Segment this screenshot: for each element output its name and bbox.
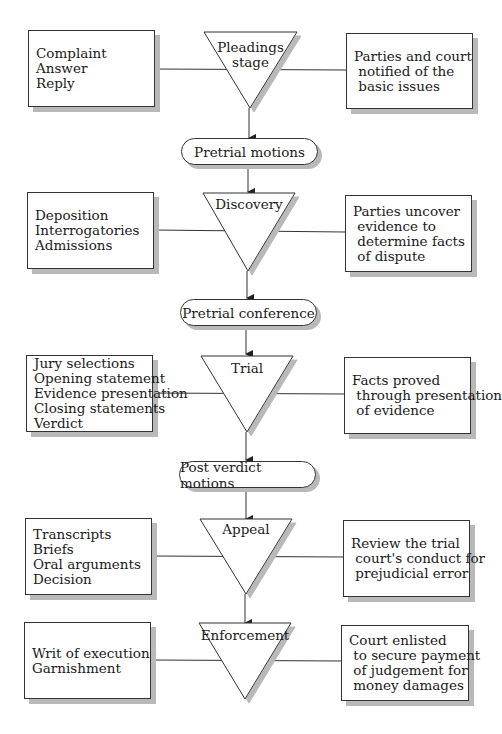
stage-4-purpose: Review the trial court's conduct for pre… xyxy=(351,536,485,581)
transition-pretrial-conference: Pretrial conference xyxy=(180,299,317,326)
stage-1-activities-box: Complaint Answer Reply xyxy=(28,30,155,107)
stage-4-label: Appeal xyxy=(200,522,292,537)
stage-3-label: Trial xyxy=(201,361,293,376)
transition-2-label: Pretrial conference xyxy=(182,305,314,321)
stage-4-activities-box: Transcripts Briefs Oral arguments Decisi… xyxy=(25,518,152,595)
stage-3-purpose: Facts proved through presentation of evi… xyxy=(352,373,502,418)
stage-2-purpose-box: Parties uncover evidence to determine fa… xyxy=(345,195,472,272)
stage-3-activities-box: Jury selections Opening statement Eviden… xyxy=(26,355,153,432)
stage-1-activities: Complaint Answer Reply xyxy=(36,46,107,91)
stage-2-activities: Deposition Interrogatories Admissions xyxy=(35,208,139,253)
stage-3-purpose-box: Facts proved through presentation of evi… xyxy=(344,357,471,434)
stage-5-activities: Writ of execution Garnishment xyxy=(32,646,150,676)
stage-2-label: Discovery xyxy=(203,197,295,212)
stage-2-purpose: Parties uncover evidence to determine fa… xyxy=(353,204,465,264)
stage-3-activities: Jury selections Opening statement Eviden… xyxy=(34,356,188,431)
stage-2-activities-box: Deposition Interrogatories Admissions xyxy=(27,192,154,269)
stage-4-activities: Transcripts Briefs Oral arguments Decisi… xyxy=(33,527,141,587)
stage-5-purpose-box: Court enlisted to secure payment of judg… xyxy=(341,625,469,701)
transition-1-label: Pretrial motions xyxy=(194,144,305,160)
stage-5-purpose: Court enlisted to secure payment of judg… xyxy=(349,633,480,693)
stage-1-purpose-box: Parties and court notified of the basic … xyxy=(346,33,473,109)
transition-3-label: Post verdict motions xyxy=(180,459,315,491)
stage-5-label: Enforcement xyxy=(199,628,291,643)
stage-1-purpose: Parties and court notified of the basic … xyxy=(354,49,472,94)
stage-1-label: Pleadings stage xyxy=(204,40,297,70)
stage-4-purpose-box: Review the trial court's conduct for pre… xyxy=(343,520,470,597)
transition-pretrial-motions: Pretrial motions xyxy=(181,138,318,165)
transition-post-verdict-motions: Post verdict motions xyxy=(179,461,316,488)
stage-5-activities-box: Writ of execution Garnishment xyxy=(24,622,151,699)
